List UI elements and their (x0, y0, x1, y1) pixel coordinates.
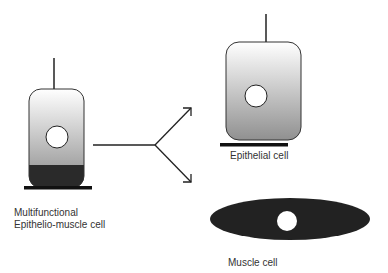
epithelio-muscle-cell (24, 58, 92, 190)
muscle-cell (210, 198, 370, 240)
basement-membrane (220, 143, 288, 147)
nucleus (245, 85, 267, 107)
nucleus (277, 211, 297, 231)
diagram-canvas: Multifunctional Epithelio-muscle cell Ep… (0, 0, 388, 273)
basement-membrane (24, 186, 92, 190)
source-label-line1: Multifunctional (14, 207, 105, 219)
epithelial-cell-label: Epithelial cell (230, 150, 288, 162)
differentiation-arrows (93, 108, 191, 182)
source-cell-label: Multifunctional Epithelio-muscle cell (14, 207, 105, 231)
muscle-cell-label: Muscle cell (228, 257, 277, 269)
epithelial-cell (220, 14, 301, 147)
diagram-svg (0, 0, 388, 273)
nucleus (46, 126, 68, 148)
source-label-line2: Epithelio-muscle cell (14, 219, 105, 231)
